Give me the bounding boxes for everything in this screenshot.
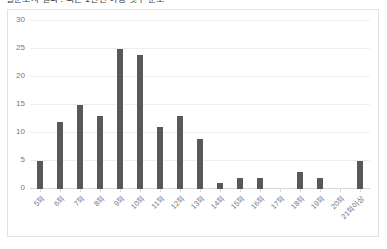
x-axis-tick-label: 16회: [249, 194, 266, 211]
x-axis-tick: [160, 189, 161, 192]
bar: [157, 127, 163, 189]
x-axis-tick-label: 8회: [92, 194, 106, 208]
bar-series: [30, 21, 370, 189]
x-label-slot: 14회: [210, 192, 230, 236]
bar: [257, 178, 263, 189]
y-axis-tick-label: 30: [16, 16, 25, 24]
x-axis-tick-label: 9회: [112, 194, 126, 208]
bar: [197, 139, 203, 189]
x-axis-tick: [220, 189, 221, 192]
x-label-slot: 13회: [190, 192, 210, 236]
bar-slot: [130, 21, 150, 189]
y-axis-tick-label: 5: [21, 156, 25, 164]
bar: [357, 161, 363, 189]
x-axis-tick: [260, 189, 261, 192]
x-axis-tick-label: 11회: [150, 194, 167, 211]
y-axis-tick-label: 0: [21, 184, 25, 192]
chart-title-strip: 설문조사 결과 : 최근 1년간 이용 횟수 분포: [0, 0, 387, 7]
x-axis-tick: [360, 189, 361, 192]
x-label-slot: 10회: [130, 192, 150, 236]
x-label-slot: 18회: [290, 192, 310, 236]
x-axis-tick-label: 5회: [32, 194, 46, 208]
bar: [117, 49, 123, 189]
x-axis-tick-label: 10회: [129, 194, 146, 211]
x-label-slot: 21회이상: [350, 192, 370, 236]
bar-slot: [170, 21, 190, 189]
x-axis-tick-label: 6회: [52, 194, 66, 208]
chart-title: 설문조사 결과 : 최근 1년간 이용 횟수 분포: [6, 0, 164, 5]
bar-slot: [110, 21, 130, 189]
x-label-slot: 11회: [150, 192, 170, 236]
bar: [37, 161, 43, 189]
x-axis-tick-label: 12회: [169, 194, 186, 211]
bar: [297, 172, 303, 189]
x-label-slot: 15회: [230, 192, 250, 236]
x-axis-labels: 5회6회7회8회9회10회11회12회13회14회15회16회17회18회19회…: [30, 192, 370, 236]
bar: [177, 116, 183, 189]
bar-slot: [230, 21, 250, 189]
x-axis-tick: [180, 189, 181, 192]
chart-plot-frame: 051015202530 5회6회7회8회9회10회11회12회13회14회15…: [7, 9, 379, 237]
x-label-slot: 12회: [170, 192, 190, 236]
x-axis-tick: [300, 189, 301, 192]
x-axis-tick-label: 19회: [309, 194, 326, 211]
x-axis-tick: [200, 189, 201, 192]
bar-chart-figure: 설문조사 결과 : 최근 1년간 이용 횟수 분포 051015202530 5…: [0, 0, 387, 249]
x-axis-tick-label: 17회: [269, 194, 286, 211]
bar-slot: [190, 21, 210, 189]
x-axis-tick: [60, 189, 61, 192]
x-axis-tick: [340, 189, 341, 192]
x-axis-tick: [40, 189, 41, 192]
x-axis-tick: [120, 189, 121, 192]
bar: [97, 116, 103, 189]
bar-slot: [70, 21, 90, 189]
x-axis-tick-label: 7회: [72, 194, 86, 208]
bar-slot: [150, 21, 170, 189]
bar-slot: [270, 21, 290, 189]
bar: [77, 105, 83, 189]
bar-slot: [310, 21, 330, 189]
x-axis-tick: [320, 189, 321, 192]
bar-slot: [30, 21, 50, 189]
x-label-slot: 6회: [50, 192, 70, 236]
bar: [317, 178, 323, 189]
x-axis-tick: [100, 189, 101, 192]
x-axis-tick-label: 13회: [189, 194, 206, 211]
bar-slot: [350, 21, 370, 189]
x-label-slot: 7회: [70, 192, 90, 236]
x-label-slot: 8회: [90, 192, 110, 236]
x-axis-tick: [80, 189, 81, 192]
bar: [237, 178, 243, 189]
x-label-slot: 5회: [30, 192, 50, 236]
bar: [57, 122, 63, 189]
bar-slot: [250, 21, 270, 189]
x-axis-tick: [280, 189, 281, 192]
plot-area: 051015202530: [30, 21, 370, 189]
x-axis-tick: [140, 189, 141, 192]
x-label-slot: 19회: [310, 192, 330, 236]
bar-slot: [90, 21, 110, 189]
x-label-slot: 16회: [250, 192, 270, 236]
bar-slot: [290, 21, 310, 189]
x-label-slot: 17회: [270, 192, 290, 236]
bar-slot: [210, 21, 230, 189]
bar-slot: [50, 21, 70, 189]
x-label-slot: 9회: [110, 192, 130, 236]
y-axis-tick-label: 20: [16, 72, 25, 80]
y-axis-tick-label: 15: [16, 100, 25, 108]
x-axis-tick-label: 18회: [289, 194, 306, 211]
x-axis-tick-label: 14회: [209, 194, 226, 211]
x-axis-tick: [240, 189, 241, 192]
x-axis-tick-label: 15회: [229, 194, 246, 211]
y-axis-tick-label: 25: [16, 44, 25, 52]
y-axis-tick-label: 10: [16, 128, 25, 136]
bar-slot: [330, 21, 350, 189]
bar: [137, 55, 143, 189]
